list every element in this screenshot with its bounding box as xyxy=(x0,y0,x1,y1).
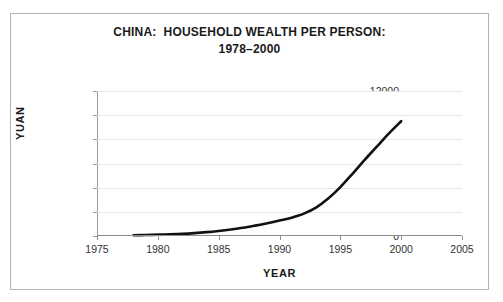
x-tick-label: 2005 xyxy=(439,244,485,254)
x-tick-label: 2000 xyxy=(378,244,424,254)
x-tick-mark xyxy=(401,236,402,240)
x-tick-label: 1980 xyxy=(135,244,181,254)
plot-area xyxy=(97,91,462,236)
x-tick-mark xyxy=(158,236,159,240)
x-tick-label: 1975 xyxy=(74,244,120,254)
x-tick-label: 1995 xyxy=(317,244,363,254)
x-tick-mark xyxy=(340,236,341,240)
data-series-line xyxy=(97,91,462,236)
x-tick-label: 1985 xyxy=(196,244,242,254)
x-tick-label: 1990 xyxy=(257,244,303,254)
y-axis-label: YUAN xyxy=(14,106,26,140)
x-tick-mark xyxy=(280,236,281,240)
x-tick-mark xyxy=(97,236,98,240)
x-tick-mark xyxy=(462,236,463,240)
x-tick-mark xyxy=(219,236,220,240)
x-axis-label: YEAR xyxy=(97,267,462,279)
chart-figure: CHINA: HOUSEHOLD WEALTH PER PERSON: 1978… xyxy=(0,0,503,302)
